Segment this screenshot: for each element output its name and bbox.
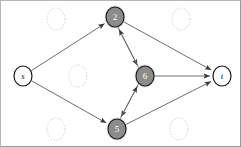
- ghost-node: [47, 118, 65, 140]
- ghost-node: [69, 65, 87, 87]
- graph-edge: [31, 24, 104, 71]
- graph-edge: [31, 81, 106, 123]
- node-label: s: [21, 71, 25, 81]
- node-label: 2: [113, 12, 118, 22]
- node-layer: s265t: [14, 6, 231, 141]
- graph-edge: [123, 22, 211, 70]
- graph-canvas: s265t: [1, 1, 241, 147]
- ghost-node: [170, 118, 188, 140]
- figure-frame: s265t: [0, 0, 241, 147]
- ghost-node: [47, 8, 65, 30]
- ghost-node: [172, 8, 190, 30]
- graph-node-n6[interactable]: 6: [135, 65, 156, 88]
- graph-node-n2[interactable]: 2: [105, 6, 126, 29]
- node-label: 5: [115, 124, 120, 134]
- graph-edge: [120, 87, 137, 119]
- node-label: 6: [143, 71, 148, 81]
- graph-node-n5[interactable]: 5: [107, 118, 128, 141]
- graph-node-t[interactable]: t: [213, 66, 231, 86]
- edge-layer: [31, 22, 211, 125]
- graph-edge: [126, 82, 211, 125]
- graph-edge: [119, 29, 138, 67]
- graph-node-s[interactable]: s: [14, 66, 32, 86]
